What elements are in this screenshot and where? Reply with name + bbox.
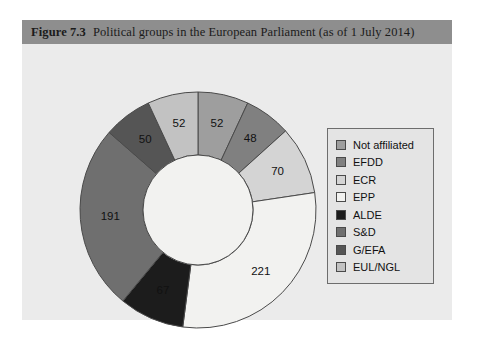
figure-number: Figure 7.3 (31, 25, 86, 40)
legend-item-label: ECR (353, 174, 376, 186)
chart-area: 524870221671915052 Not affiliatedEFDDECR… (22, 44, 452, 320)
legend-swatch-icon (336, 157, 346, 167)
legend-item-label: S&D (353, 226, 376, 238)
legend-item-label: ALDE (353, 209, 382, 221)
donut-slice-label: 52 (173, 117, 186, 129)
donut-center-hole (143, 155, 253, 265)
figure-page: Figure 7.3 Political groups in the Europ… (0, 0, 480, 345)
legend-swatch-icon (336, 245, 346, 255)
legend-item-label: Not affiliated (353, 139, 414, 151)
donut-slice-label: 221 (251, 265, 270, 277)
legend-swatch-icon (336, 210, 346, 220)
donut-chart: 524870221671915052 (34, 56, 334, 336)
legend-item[interactable]: Not affiliated (336, 136, 433, 154)
chart-legend: Not affiliatedEFDDECREPPALDES&DG/EFAEUL/… (327, 128, 434, 284)
legend-item-label: G/EFA (353, 244, 385, 256)
donut-slice-label: 191 (101, 210, 120, 222)
legend-item-label: EUL/NGL (353, 261, 400, 273)
legend-swatch-icon (336, 262, 346, 272)
legend-item-label: EFDD (353, 156, 383, 168)
legend-swatch-icon (336, 140, 346, 150)
legend-swatch-icon (336, 227, 346, 237)
figure-container: Figure 7.3 Political groups in the Europ… (22, 20, 452, 320)
donut-slice-label: 67 (157, 284, 170, 296)
legend-swatch-icon (336, 175, 346, 185)
legend-item-label: EPP (353, 191, 375, 203)
legend-item[interactable]: ECR (336, 171, 433, 189)
legend-item[interactable]: EUL/NGL (336, 259, 433, 277)
legend-item[interactable]: S&D (336, 224, 433, 242)
donut-slice-label: 48 (244, 132, 257, 144)
legend-item[interactable]: EFDD (336, 154, 433, 172)
legend-item[interactable]: G/EFA (336, 241, 433, 259)
donut-slice-label: 52 (211, 117, 224, 129)
legend-item[interactable]: EPP (336, 189, 433, 207)
figure-title-bar: Figure 7.3 Political groups in the Europ… (22, 20, 452, 44)
figure-title: Political groups in the European Parliam… (93, 25, 415, 40)
legend-swatch-icon (336, 192, 346, 202)
legend-item[interactable]: ALDE (336, 206, 433, 224)
donut-slice-label: 50 (139, 133, 152, 145)
donut-slice-label: 70 (271, 165, 284, 177)
